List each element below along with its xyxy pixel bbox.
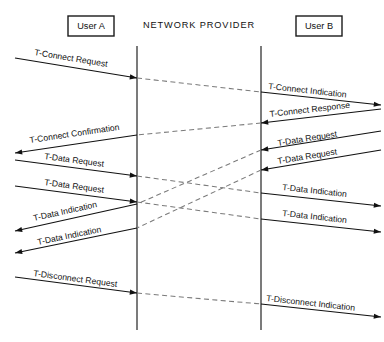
- sequence-diagram: User ANETWORK PROVIDERUser B T-Connect R…: [0, 0, 384, 342]
- sequence-diagram-canvas: User ANETWORK PROVIDERUser B T-Connect R…: [0, 0, 384, 342]
- actor-label-user-a: User A: [77, 21, 105, 31]
- actor-label-user-b: User B: [305, 21, 333, 31]
- actor-label-network-provider: NETWORK PROVIDER: [143, 20, 255, 30]
